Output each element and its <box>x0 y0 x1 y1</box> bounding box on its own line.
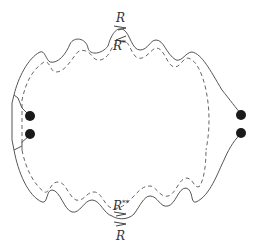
label-bottom-outer: R <box>115 229 125 243</box>
left-lead-lower <box>22 137 28 146</box>
inner-boundary-top <box>22 41 209 150</box>
label-top-inner-sup: * <box>122 39 126 47</box>
outer-boundary-top <box>14 29 241 114</box>
diagram-canvas: R R* R** R <box>0 0 257 248</box>
bottom-outer-arrow <box>114 222 126 226</box>
label-top-outer: R <box>115 11 125 25</box>
right-node-upper <box>236 110 246 120</box>
label-top-inner: R* <box>112 39 126 53</box>
left-lead-upper <box>18 98 28 114</box>
left-node-upper <box>25 111 35 121</box>
left-node-lower <box>25 129 35 139</box>
label-bottom-inner: R** <box>112 199 130 213</box>
label-bottom-inner-sup: ** <box>122 199 130 207</box>
right-node-lower <box>236 128 246 138</box>
top-outer-arrow <box>114 26 126 30</box>
label-top-inner-base: R <box>112 39 122 53</box>
label-bottom-inner-base: R <box>112 199 122 213</box>
outer-boundary-left <box>12 95 14 150</box>
